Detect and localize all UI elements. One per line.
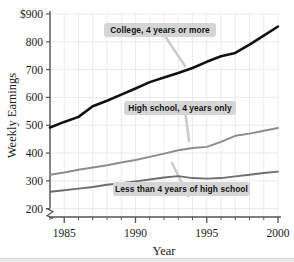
- x-tick-label: 2000: [267, 227, 290, 239]
- annotation-label: Less than 4 years of high school: [115, 184, 248, 194]
- y-tick-label: 300: [26, 175, 44, 187]
- annotation-1: High school, 4 years only: [124, 101, 236, 115]
- x-tick-label: 1990: [124, 227, 147, 239]
- line-chart-canvas: $900800700600500400300200198519901995200…: [0, 0, 294, 262]
- y-tick-label: 800: [26, 36, 44, 48]
- annotation-label: High school, 4 years only: [128, 103, 232, 113]
- y-tick-label: 700: [26, 64, 44, 76]
- annotation-leader-lines: [166, 37, 189, 196]
- x-tick-label: 1995: [195, 227, 218, 239]
- annotation-2: Less than 4 years of high school: [113, 182, 250, 196]
- y-tick-label: 600: [26, 91, 44, 103]
- chart-figure: $900800700600500400300200198519901995200…: [0, 0, 294, 262]
- y-tick-label: 200: [26, 203, 44, 215]
- y-tick-label: 500: [26, 119, 44, 131]
- x-tick-label: 1985: [53, 227, 76, 239]
- annotations-group: College, 4 years or moreHigh school, 4 y…: [104, 23, 250, 196]
- x-axis-ticks: 1985199019952000: [50, 217, 290, 239]
- annotation-0: College, 4 years or more: [104, 23, 216, 37]
- y-axis-title: Weekly Earnings: [5, 73, 19, 159]
- annotation-leader-line: [186, 115, 189, 141]
- y-tick-label: $900: [20, 8, 43, 20]
- y-tick-label: 400: [26, 147, 44, 159]
- annotation-label: College, 4 years or more: [110, 25, 210, 35]
- y-axis-ticks: $900800700600500400300200: [20, 8, 50, 215]
- x-axis-title: Year: [152, 244, 176, 258]
